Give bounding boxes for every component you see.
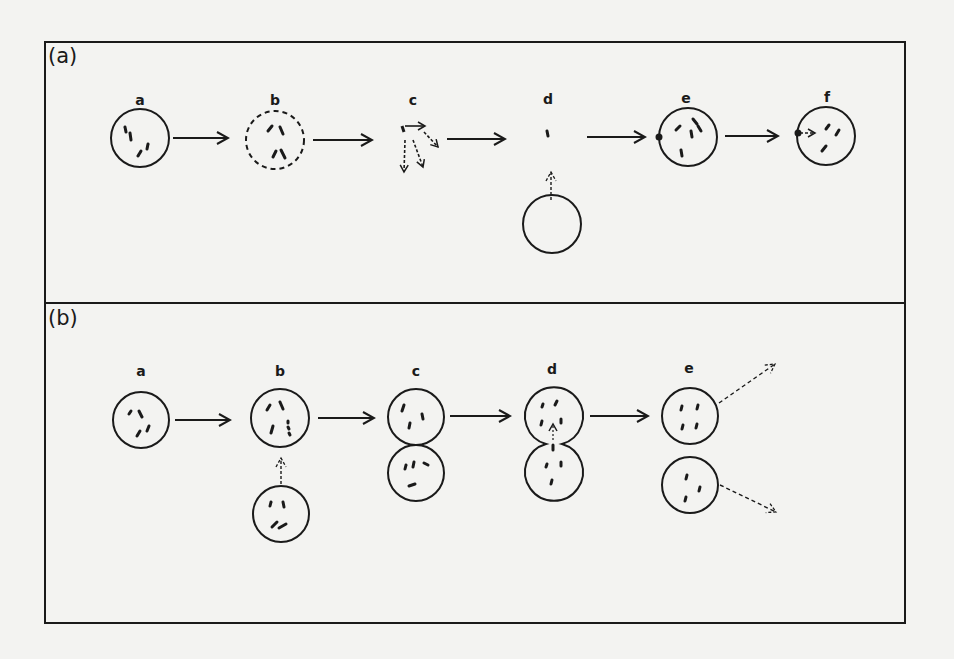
panel-b-step-e-cells <box>662 364 776 513</box>
panel-a-step-label: c <box>409 92 417 108</box>
panel-b-step-label: a <box>136 363 145 379</box>
diagram-figure: (a) (b) a b c d e f a b c d e <box>0 0 954 659</box>
panel-b-step-label: b <box>275 363 285 379</box>
panel-a-step-label: f <box>824 89 830 105</box>
panel-b-step-c-cells <box>388 389 444 501</box>
panel-b-step-b-cell <box>251 389 309 542</box>
panel-b-step-label: e <box>684 360 694 376</box>
panel-a-label: (a) <box>48 44 77 68</box>
panel-b-step-label: c <box>412 363 420 379</box>
panel-b-step-a-cell <box>113 392 169 448</box>
panel-a-step-a-cell <box>111 109 169 167</box>
panel-b-step-d-dividing-cell <box>525 387 583 501</box>
panel-a-step-label: b <box>270 92 280 108</box>
panel-a-step-label: e <box>681 90 691 106</box>
panel-b-label: (b) <box>48 306 78 330</box>
panel-a-step-label: d <box>543 91 553 107</box>
panel-b-step-label: d <box>547 361 557 377</box>
panel-a-step-e-cell <box>657 108 718 166</box>
panel-a-step-c-fragments <box>402 126 438 172</box>
panel-a-step-label: a <box>135 92 144 108</box>
figure-frame <box>45 42 905 623</box>
panel-a-step-b-cell <box>246 111 304 169</box>
panel-a-step-d <box>523 131 581 253</box>
panel-a <box>111 107 855 253</box>
panel-a-step-f-cell <box>796 107 856 165</box>
panel-b <box>113 364 776 542</box>
